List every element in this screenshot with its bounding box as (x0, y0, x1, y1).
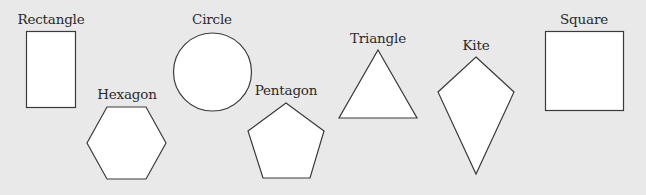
circle-label: Circle (192, 13, 232, 27)
kite-label: Kite (462, 39, 489, 53)
circle-shape (174, 33, 252, 111)
shapes-diagram: Rectangle Circle Hexagon Pentagon Triang… (0, 0, 646, 195)
pentagon-label: Pentagon (255, 84, 318, 98)
hexagon-label: Hexagon (97, 88, 157, 102)
triangle-shape (339, 50, 417, 118)
pentagon-shape (248, 103, 324, 178)
rectangle-label: Rectangle (17, 13, 84, 27)
square-label: Square (560, 13, 608, 27)
triangle-label: Triangle (350, 32, 406, 46)
square-shape (546, 32, 624, 111)
rectangle-shape (27, 32, 76, 108)
kite-shape (438, 57, 514, 174)
hexagon-shape (87, 107, 166, 179)
